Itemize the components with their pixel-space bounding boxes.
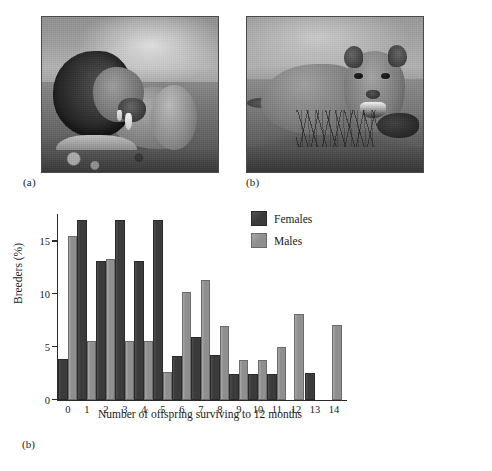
legend-label-males: Males	[274, 235, 302, 247]
legend-item-females: Females	[251, 211, 312, 226]
photo-grain-overlay	[247, 17, 423, 172]
bar-males-3	[125, 341, 135, 400]
bar-males-8	[220, 326, 230, 400]
lioness-scene-graphic	[247, 17, 423, 172]
legend-swatch-females	[251, 211, 267, 226]
y-tick-label: 0	[45, 394, 50, 405]
bar-group	[153, 215, 172, 400]
bar-females-5	[153, 220, 163, 400]
y-tick-label: 15	[40, 236, 51, 247]
bar-females-13	[305, 373, 315, 399]
bar-group	[58, 215, 77, 400]
photo-panel-a: (a)	[41, 16, 219, 173]
bar-males-1	[87, 341, 97, 400]
bar-group	[77, 215, 96, 400]
bar-males-5	[163, 372, 173, 399]
bar-females-0	[58, 359, 68, 400]
y-tick-mark	[52, 346, 58, 347]
legend-item-males: Males	[251, 233, 312, 248]
legend-label-females: Females	[274, 213, 312, 225]
bar-females-3	[115, 220, 125, 400]
y-tick-label: 10	[40, 288, 51, 299]
chart-legend: Females Males	[251, 211, 312, 255]
bar-females-1	[77, 220, 87, 400]
bar-females-7	[191, 337, 201, 399]
x-axis-line	[57, 400, 347, 401]
male-lion-photo	[41, 16, 219, 173]
chart-block: Breeders (%) 051015 01234567891011121314…	[0, 196, 492, 471]
photo-panel-b: (b)	[246, 16, 424, 173]
bar-group	[324, 215, 343, 400]
bar-group	[172, 215, 191, 400]
bar-group	[210, 215, 229, 400]
bar-males-6	[182, 292, 192, 400]
bar-group	[191, 215, 210, 400]
y-tick-mark	[52, 293, 58, 294]
photograph-row: (a) (b)	[0, 0, 492, 196]
lion-scene-graphic	[42, 17, 218, 172]
bar-males-2	[106, 259, 116, 399]
bar-males-14	[332, 325, 342, 400]
bar-females-10	[248, 374, 258, 399]
breeders-bar-chart: Breeders (%) 051015 01234567891011121314…	[0, 196, 492, 471]
y-tick-mark	[52, 240, 58, 241]
bar-females-8	[210, 355, 220, 399]
bar-group	[229, 215, 248, 400]
y-tick-label: 5	[45, 341, 50, 352]
bar-females-6	[172, 356, 182, 399]
photo-grain-overlay	[42, 17, 218, 172]
bar-group	[96, 215, 115, 400]
y-axis-title: Breeders (%)	[12, 243, 24, 304]
x-axis-title: Number of offspring surviving to 12 mont…	[45, 408, 355, 420]
bar-females-2	[96, 261, 106, 399]
legend-swatch-males	[251, 233, 267, 248]
bar-males-10	[258, 360, 268, 400]
bar-females-11	[267, 374, 277, 399]
bar-males-11	[277, 347, 287, 400]
panel-caption-a: (a)	[23, 176, 36, 188]
bar-males-0	[68, 236, 78, 400]
y-tick-mark	[52, 399, 58, 400]
bar-males-9	[239, 360, 249, 400]
bar-group	[134, 215, 153, 400]
bar-males-7	[201, 280, 211, 399]
panel-caption-b: (b)	[246, 176, 259, 188]
bar-males-4	[144, 341, 154, 400]
bar-males-12	[294, 314, 304, 400]
lioness-photo	[246, 16, 424, 173]
bar-females-4	[134, 261, 144, 399]
bar-group	[115, 215, 134, 400]
bar-females-9	[229, 374, 239, 399]
figure-caption-b: (b)	[22, 438, 35, 450]
